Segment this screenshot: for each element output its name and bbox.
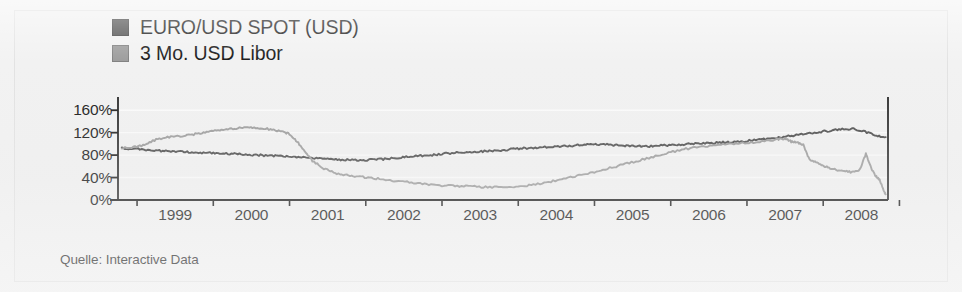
- chart-figure: EURO/USD SPOT (USD) 3 Mo. USD Libor 0%40…: [0, 0, 962, 292]
- source-note: Quelle: Interactive Data: [60, 252, 199, 267]
- legend-item-libor: 3 Mo. USD Libor: [112, 44, 359, 63]
- legend-swatch-eurusd: [112, 19, 129, 36]
- y-tick-label: 160%: [73, 101, 112, 119]
- x-tick-label: 2000: [235, 206, 269, 224]
- legend-swatch-libor: [112, 45, 129, 62]
- y-axis-labels: 0%40%80%120%160%: [48, 93, 112, 208]
- x-tick-label: 2002: [387, 206, 421, 224]
- plot-gridlines: [118, 110, 888, 177]
- plot-series: [122, 127, 886, 194]
- x-tick-label: 1999: [158, 206, 192, 224]
- x-tick-label: 2008: [844, 206, 878, 224]
- y-tick-label: 120%: [73, 124, 112, 142]
- x-tick-label: 2007: [768, 206, 802, 224]
- legend-item-eurusd: EURO/USD SPOT (USD): [112, 18, 359, 37]
- y-tick-label: 40%: [82, 169, 112, 187]
- legend-label-libor: 3 Mo. USD Libor: [140, 44, 283, 63]
- plot-area: [118, 99, 888, 200]
- plot-svg: [118, 99, 888, 200]
- x-tick-label: 2005: [616, 206, 650, 224]
- x-tick-label: 2004: [540, 206, 574, 224]
- y-tick-label: 80%: [82, 146, 112, 164]
- chart-legend: EURO/USD SPOT (USD) 3 Mo. USD Libor: [112, 18, 359, 63]
- x-axis-labels: 1999200020012002200320042005200620072008: [118, 206, 888, 228]
- line-series-libor: [122, 127, 886, 194]
- x-tick-label: 2003: [463, 206, 497, 224]
- x-tick-label: 2006: [692, 206, 726, 224]
- legend-label-eurusd: EURO/USD SPOT (USD): [140, 18, 359, 37]
- y-tick-label: 0%: [90, 191, 112, 209]
- x-tick-label: 2001: [311, 206, 345, 224]
